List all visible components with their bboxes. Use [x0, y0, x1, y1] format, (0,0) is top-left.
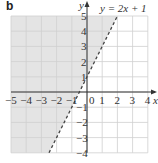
y-tick-label: −3 [76, 132, 88, 144]
y-tick-label: 3 [81, 40, 87, 52]
x-tick-label: 2 [114, 94, 120, 106]
x-tick-label: −4 [20, 94, 32, 106]
shade-polygon [11, 16, 117, 153]
y-tick-label: 5 [81, 10, 87, 22]
x-tick-label: −5 [5, 94, 17, 106]
y-tick-label: −1 [76, 101, 88, 113]
inequality-graph: −5−4−3−2−101234−4−3−2−112345x b y y = 2x… [0, 0, 158, 163]
y-tick-label: −2 [76, 116, 88, 128]
y-tick-label: 2 [81, 56, 87, 68]
x-tick-label: 0 [89, 94, 95, 106]
y-tick-label: 4 [81, 25, 87, 37]
x-axis-label: x [152, 94, 158, 106]
y-arrow-icon [85, 1, 90, 7]
y-tick-label: −4 [76, 147, 88, 159]
y-tick-label: 1 [81, 71, 87, 83]
x-tick-label: 1 [99, 94, 105, 106]
x-tick-label: 3 [130, 94, 136, 106]
x-tick-label: −3 [35, 94, 47, 106]
x-tick-label: 4 [145, 94, 151, 106]
part-label: b [6, 0, 13, 13]
shaded-region [11, 16, 117, 153]
x-tick-label: −2 [51, 94, 63, 106]
y-axis-label: y [78, 0, 84, 11]
equation-label: y = 2x + 1 [99, 2, 147, 14]
